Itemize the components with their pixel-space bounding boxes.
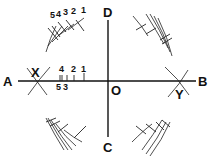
label-d: D — [103, 5, 112, 20]
tick-label-5: 5 — [56, 82, 61, 92]
top-right-arcs — [133, 14, 172, 56]
arc-label-1: 1 — [81, 5, 86, 15]
arc-label-4: 4 — [56, 9, 61, 19]
tick-label-4: 4 — [59, 64, 64, 74]
diagram-canvas: A B D C O X Y 4 2 1 5 3 5 4 3 2 1 — [0, 0, 213, 168]
top-left-arcs — [46, 18, 84, 52]
bottom-right-arcs — [132, 120, 170, 156]
arc-label-2: 2 — [71, 6, 76, 16]
label-c: C — [103, 140, 113, 155]
label-o: O — [111, 83, 121, 98]
arc-label-3: 3 — [63, 7, 68, 17]
label-a: A — [3, 74, 13, 89]
label-b: B — [198, 74, 207, 89]
tick-label-2: 2 — [71, 64, 76, 74]
arc-label-5: 5 — [50, 10, 55, 20]
bottom-left-arcs — [46, 118, 86, 150]
label-y: Y — [175, 87, 184, 102]
tick-label-1: 1 — [81, 64, 86, 74]
line-ticks — [60, 73, 84, 81]
label-x: X — [31, 65, 40, 80]
tick-label-3: 3 — [63, 82, 68, 92]
